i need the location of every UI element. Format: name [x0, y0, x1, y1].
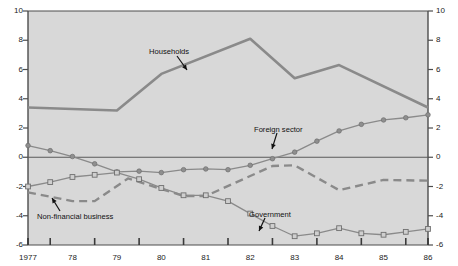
data-point-circle: [426, 113, 431, 118]
data-point-circle: [203, 167, 208, 172]
chart-container: 10108866442200-2-2-4-4-6-619777879808182…: [0, 0, 458, 266]
data-point-circle: [26, 143, 31, 148]
data-point-square: [337, 226, 342, 231]
x-axis-label: 81: [192, 254, 220, 262]
data-point-circle: [226, 167, 231, 172]
data-point-square: [426, 227, 431, 232]
data-point-square: [226, 199, 231, 204]
y-axis-label-right: 2: [436, 124, 458, 132]
data-point-square: [181, 193, 186, 198]
data-point-circle: [159, 170, 164, 175]
data-point-square: [159, 186, 164, 191]
data-point-square: [292, 234, 297, 239]
y-axis-label-left: 4: [0, 95, 23, 103]
y-axis-label-right: 8: [436, 36, 458, 44]
y-axis-label-right: 10: [436, 7, 458, 15]
y-axis-label-left: 8: [0, 36, 23, 44]
y-axis-label-right: -6: [436, 241, 458, 249]
data-point-square: [270, 224, 275, 229]
data-point-circle: [292, 150, 297, 155]
data-point-circle: [403, 115, 408, 120]
y-axis-label-left: 2: [0, 124, 23, 132]
data-point-circle: [70, 154, 75, 159]
x-axis-label: 79: [103, 254, 131, 262]
chart-svg: [0, 0, 458, 266]
y-axis-label-right: 4: [436, 95, 458, 103]
y-axis-label-right: -2: [436, 183, 458, 191]
y-axis-label-left: 10: [0, 7, 23, 15]
data-point-circle: [248, 163, 253, 168]
x-axis-label: 1977: [14, 254, 42, 262]
series-annotation-government: Government: [249, 211, 291, 219]
data-point-circle: [48, 148, 53, 153]
x-axis-label: 80: [147, 254, 175, 262]
data-point-square: [48, 180, 53, 185]
x-axis-label: 82: [236, 254, 264, 262]
data-point-circle: [381, 118, 386, 123]
data-point-square: [137, 177, 142, 182]
y-axis-label-left: -6: [0, 241, 23, 249]
y-axis-label-left: -2: [0, 183, 23, 191]
x-axis-label: 86: [414, 254, 442, 262]
data-point-square: [92, 172, 97, 177]
data-point-square: [403, 229, 408, 234]
plot-area-background: [28, 11, 428, 245]
data-point-square: [359, 231, 364, 236]
data-point-square: [203, 193, 208, 198]
x-axis-label: 85: [370, 254, 398, 262]
series-annotation-households: Households: [149, 48, 189, 56]
x-axis-label: 78: [58, 254, 86, 262]
data-point-square: [381, 232, 386, 237]
data-point-circle: [270, 156, 275, 161]
y-axis-label-right: 6: [436, 66, 458, 74]
data-point-circle: [337, 129, 342, 134]
data-point-square: [314, 231, 319, 236]
x-axis-label: 84: [325, 254, 353, 262]
plot-background-group: [28, 11, 428, 245]
data-point-circle: [359, 122, 364, 127]
data-point-circle: [181, 167, 186, 172]
y-axis-label-left: 6: [0, 66, 23, 74]
data-point-square: [70, 175, 75, 180]
y-axis-label-right: 0: [436, 153, 458, 161]
series-annotation-non-financial-business: Non-financial business: [37, 213, 113, 221]
data-point-square: [114, 170, 119, 175]
y-axis-label-left: -4: [0, 212, 23, 220]
y-axis-label-left: 0: [0, 153, 23, 161]
data-point-circle: [92, 162, 97, 167]
data-point-square: [26, 184, 31, 189]
x-axis-label: 83: [281, 254, 309, 262]
data-point-circle: [137, 169, 142, 174]
data-point-circle: [315, 139, 320, 144]
y-axis-label-right: -4: [436, 212, 458, 220]
series-annotation-foreign-sector: Foreign sector: [254, 126, 303, 134]
